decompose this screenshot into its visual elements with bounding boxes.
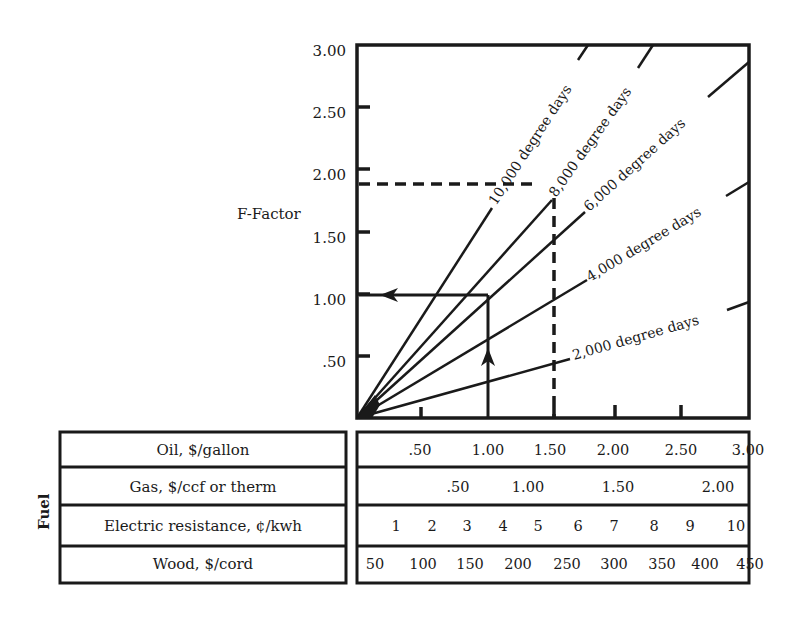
gas-val: .50 xyxy=(446,479,469,495)
electric-val: 7 xyxy=(609,518,618,534)
fuel-name-oil: Oil, $/gallon xyxy=(157,441,250,459)
line-6000-upper xyxy=(708,62,749,97)
wood-scale-row: 50 100 150 200 250 300 350 400 450 xyxy=(366,556,764,572)
oil-val: 2.50 xyxy=(665,442,697,458)
fuel-axis-label: Fuel xyxy=(35,493,53,530)
ytick-100: 1.00 xyxy=(313,291,346,309)
electric-val: 2 xyxy=(427,518,436,534)
y-tick-labels: .50 1.00 1.50 2.00 2.50 3.00 xyxy=(313,42,346,371)
y-axis-label: F-Factor xyxy=(237,205,302,223)
oil-scale-row: .50 1.00 1.50 2.00 2.50 3.00 xyxy=(408,442,764,458)
electric-scale-row: 1 2 3 4 5 6 7 8 9 10 xyxy=(391,518,745,534)
oil-val: 2.00 xyxy=(597,442,629,458)
electric-val: 10 xyxy=(727,518,745,534)
line-8000-lower xyxy=(357,200,552,418)
ytick-300: 3.00 xyxy=(313,42,346,60)
oil-val: .50 xyxy=(408,442,431,458)
label-4000: 4,000 degree days xyxy=(583,203,703,284)
fuel-name-gas: Gas, $/ccf or therm xyxy=(130,478,277,496)
electric-val: 5 xyxy=(533,518,542,534)
line-2000-upper xyxy=(727,302,749,310)
label-2000: 2,000 degree days xyxy=(570,311,700,362)
ytick-250: 2.50 xyxy=(313,104,346,122)
oil-val: 3.00 xyxy=(732,442,764,458)
f-factor-chart: .50 1.00 1.50 2.00 2.50 3.00 F-Factor 10… xyxy=(0,0,809,627)
electric-val: 4 xyxy=(498,518,507,534)
oil-val: 1.00 xyxy=(472,442,504,458)
wood-val: 200 xyxy=(504,556,532,572)
line-4000-upper xyxy=(726,182,749,196)
fuel-name-wood: Wood, $/cord xyxy=(153,555,254,573)
wood-val: 250 xyxy=(553,556,581,572)
electric-val: 1 xyxy=(391,518,400,534)
oil-val: 1.50 xyxy=(534,442,566,458)
wood-val: 300 xyxy=(600,556,628,572)
wood-val: 100 xyxy=(409,556,437,572)
ytick-050: .50 xyxy=(322,353,346,371)
ytick-150: 1.50 xyxy=(313,229,346,247)
wood-val: 400 xyxy=(691,556,719,572)
electric-val: 9 xyxy=(685,518,694,534)
fuel-name-electric: Electric resistance, ¢/kwh xyxy=(104,517,302,535)
gas-scale-row: .50 1.00 1.50 2.00 xyxy=(446,479,734,495)
x-axis-ticks xyxy=(421,405,681,418)
ytick-200: 2.00 xyxy=(313,166,346,184)
wood-val: 150 xyxy=(456,556,484,572)
wood-val: 350 xyxy=(648,556,676,572)
line-8000-upper xyxy=(638,45,653,68)
electric-val: 3 xyxy=(462,518,471,534)
gas-val: 1.00 xyxy=(512,479,544,495)
y-axis-ticks xyxy=(357,107,370,356)
gas-val: 1.50 xyxy=(602,479,634,495)
wood-val: 50 xyxy=(366,556,384,572)
line-10000-upper xyxy=(578,45,588,60)
electric-val: 6 xyxy=(573,518,582,534)
gas-val: 2.00 xyxy=(702,479,734,495)
wood-val: 450 xyxy=(736,556,764,572)
electric-val: 8 xyxy=(649,518,658,534)
